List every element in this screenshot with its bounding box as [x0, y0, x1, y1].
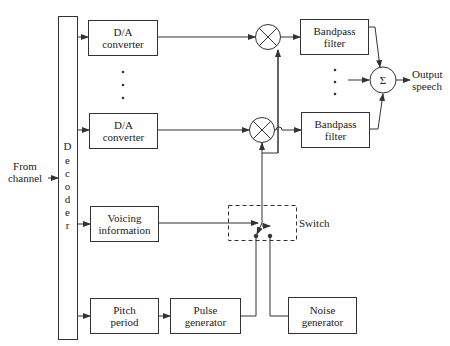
da-converter-2-label: D/A converter: [89, 113, 158, 149]
decoder-letter: D: [58, 140, 77, 152]
output-label-line1: Output: [412, 68, 450, 80]
bandpass-filter-1-label: Bandpass filter: [300, 19, 369, 55]
bandpass-label-line2: filter: [324, 37, 345, 49]
decoder-letter: c: [58, 167, 77, 179]
da-label-line2: converter: [102, 38, 144, 50]
noise-generator-label: Noise generator: [288, 297, 357, 334]
input-label-line1: From: [2, 160, 48, 172]
bandpass-filter-2-label: Bandpass filter: [301, 112, 370, 148]
decoder-letter: e: [58, 206, 77, 218]
voicing-label-line1: Voicing: [107, 212, 141, 224]
noise-label-line1: Noise: [310, 304, 336, 316]
da-label-line2: converter: [103, 131, 145, 143]
noise-label-line2: generator: [302, 316, 344, 328]
voicing-label-line2: information: [99, 224, 151, 236]
pitch-label-line1: Pitch: [113, 304, 136, 316]
input-label-line2: channel: [2, 172, 48, 184]
pitch-label-line2: period: [110, 316, 138, 328]
multiplier-2: [250, 118, 275, 143]
pulse-generator-label: Pulse generator: [170, 298, 241, 334]
pitch-period-label: Pitch period: [90, 298, 159, 334]
decoder-letter: d: [58, 193, 77, 205]
pulse-label-line2: generator: [185, 316, 227, 328]
switch-contacts: [254, 223, 272, 238]
multiplier-1: [256, 25, 281, 50]
da-converter-1-label: D/A converter: [88, 20, 158, 56]
decoder-letter: e: [58, 154, 77, 166]
decoder-letter: o: [58, 180, 77, 192]
bandpass-label-line2: filter: [325, 130, 346, 142]
bandpass-label-line1: Bandpass: [313, 25, 355, 37]
pulse-label-line1: Pulse: [194, 304, 218, 316]
voicing-information-label: Voicing information: [90, 206, 159, 242]
output-label: Output speech: [412, 68, 450, 92]
output-label-line2: speech: [412, 80, 450, 92]
input-label: From channel: [2, 160, 48, 184]
ellipsis-right: [334, 69, 337, 96]
da-label-line1: D/A: [114, 119, 133, 131]
ellipsis-left: [122, 71, 125, 100]
switch-label: Switch: [299, 217, 339, 229]
da-label-line1: D/A: [114, 26, 133, 38]
decoder-letter: r: [58, 219, 77, 231]
bandpass-label-line1: Bandpass: [314, 118, 356, 130]
summer-symbol: Σ: [375, 74, 391, 86]
